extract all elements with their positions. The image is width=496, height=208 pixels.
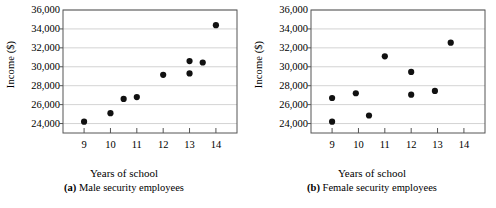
- panel-caption-a: (a) Male security employees: [0, 182, 248, 193]
- data-point: [186, 58, 192, 64]
- x-axis-title-a: Years of school: [0, 167, 248, 179]
- x-tick-label: 9: [320, 139, 344, 150]
- chart-panel-a: Income ($) 24,00026,00028,00030,00032,00…: [0, 0, 248, 208]
- data-point: [382, 53, 388, 59]
- x-axis-ticklabels-b: 91011121314: [248, 139, 496, 159]
- panel-caption-a-prefix: (a): [64, 182, 76, 193]
- x-tick-label: 12: [399, 139, 423, 150]
- x-tick-label: 14: [204, 139, 228, 150]
- scatterplot-figure: Income ($) 24,00026,00028,00030,00032,00…: [0, 0, 496, 208]
- x-axis-ticklabels-a: 91011121314: [0, 139, 248, 159]
- x-tick-label: 13: [178, 139, 202, 150]
- data-point: [329, 95, 335, 101]
- x-tick-label: 9: [72, 139, 96, 150]
- data-point: [408, 92, 414, 98]
- data-point: [329, 119, 335, 125]
- data-point: [121, 96, 127, 102]
- data-point: [432, 88, 438, 94]
- data-point: [213, 22, 219, 28]
- panel-caption-b-prefix: (b): [307, 182, 320, 193]
- x-tick-label: 14: [452, 139, 476, 150]
- panel-caption-b: (b) Female security employees: [248, 182, 496, 193]
- x-tick-label: 11: [373, 139, 397, 150]
- data-point: [353, 90, 359, 96]
- data-point: [408, 69, 414, 75]
- x-tick-label: 10: [346, 139, 370, 150]
- data-point: [448, 40, 454, 46]
- data-point: [186, 70, 192, 76]
- data-point: [134, 94, 140, 100]
- x-tick-label: 13: [426, 139, 450, 150]
- data-point: [160, 72, 166, 78]
- x-tick-label: 11: [125, 139, 149, 150]
- x-tick-label: 12: [151, 139, 175, 150]
- data-point: [200, 59, 206, 65]
- data-point: [81, 119, 87, 125]
- panel-caption-a-text: Male security employees: [79, 182, 184, 193]
- x-axis-title-b: Years of school: [248, 167, 496, 179]
- data-point: [366, 112, 372, 118]
- data-point: [107, 110, 113, 116]
- chart-panel-b: Income ($) 24,00026,00028,00030,00032,00…: [248, 0, 496, 208]
- x-tick-label: 10: [98, 139, 122, 150]
- panel-caption-b-text: Female security employees: [323, 182, 437, 193]
